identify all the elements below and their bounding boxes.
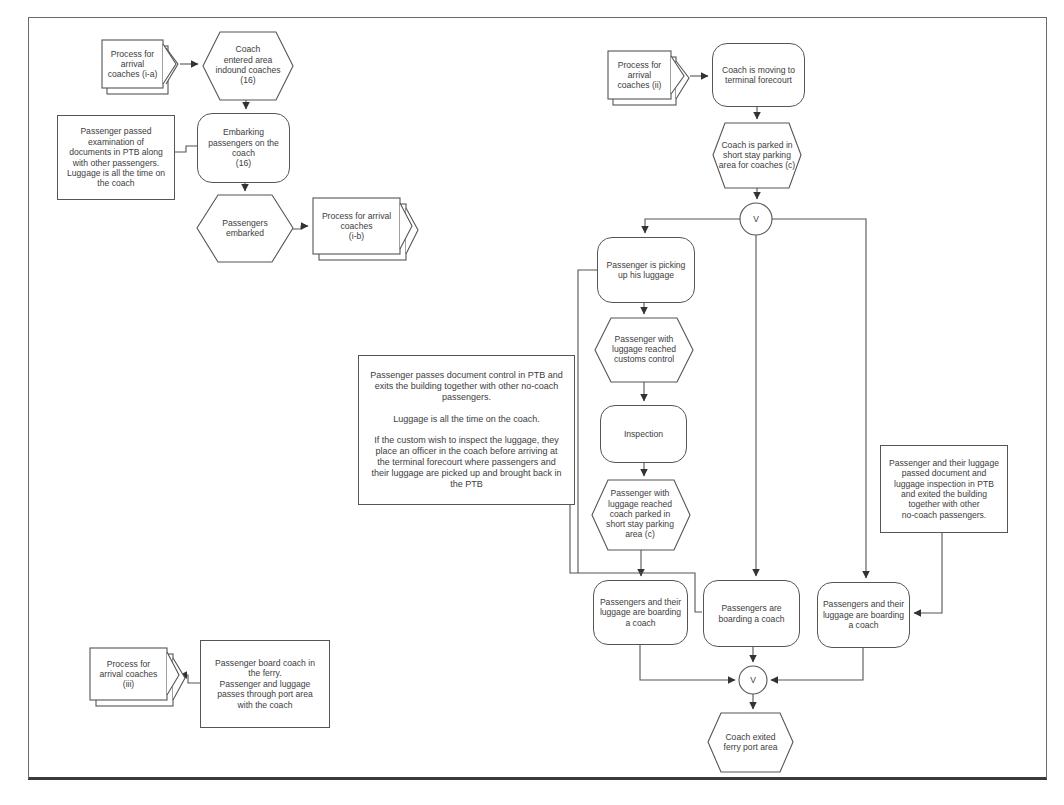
offpage-ia-label: Process for arrival coaches (i-a): [102, 42, 163, 86]
edge-embarked-to-ib: [293, 226, 308, 229]
process-inspection: Inspection: [600, 405, 687, 463]
process-boarding-left: Passengers and their luggage are boardin…: [593, 580, 688, 645]
note-board-coach-ferry: Passenger board coach in the ferry. Pass…: [200, 640, 330, 728]
flowchart-page: Embarking passengers on the coach (16) C…: [0, 0, 1064, 805]
process-coach-moving: Coach is moving to terminal forecourt: [712, 43, 805, 107]
offpage-ii-label: Process for arrival coaches (ii): [608, 53, 671, 97]
edge-junction-right-to-boardingright: [772, 219, 866, 578]
or-junction-top-label: V: [748, 211, 764, 227]
note-luggage-inspection: Passenger and their luggage passed docum…: [880, 445, 1008, 533]
offpage-iii-label: Process for arrival coaches (iii): [90, 650, 167, 698]
note-document-control: Passenger passes document control in PTB…: [358, 355, 575, 505]
process-boarding-middle: Passengers are boarding a coach: [703, 580, 800, 647]
hexagon-coach-exited-label: Coach exited ferry port area: [710, 721, 791, 763]
edge-boardingleft-to-junction2: [640, 645, 735, 680]
hexagon-passengers-embarked-label: Passengers embarked: [199, 204, 291, 252]
hexagon-parked-area-label: Passenger with luggage reached coach par…: [594, 482, 686, 546]
edge-noteright-to-boardingright: [914, 533, 942, 613]
hexagon-coach-entered-label: Coach entered area indound coaches (16): [205, 34, 291, 96]
process-passenger-picking-luggage: Passenger is picking up his luggage: [597, 237, 695, 303]
process-embarking-passengers: Embarking passengers on the coach (16): [197, 113, 290, 183]
edge-noteexam-to-embarking: [175, 146, 197, 152]
edge-junction-left-to-picking: [645, 219, 740, 233]
edge-boardingright-to-junction2: [771, 648, 863, 680]
offpage-ib-label: Process for arrival coaches (i-b): [313, 200, 400, 252]
hexagon-customs-control-label: Passenger with luggage reached customs c…: [597, 322, 691, 376]
process-boarding-right: Passengers and their luggage are boardin…: [817, 582, 910, 648]
note-passed-examination: Passenger passed examination of document…: [57, 115, 175, 200]
hexagon-coach-parked-label: Coach is parked in short stay parking ar…: [713, 127, 801, 183]
or-junction-bottom-label: V: [745, 672, 761, 688]
